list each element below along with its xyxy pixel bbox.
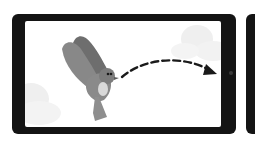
tablet-device [12,14,236,134]
adjacent-tablet [246,14,255,134]
arrow-right-icon [122,60,217,77]
cloud-icon [25,83,61,125]
camera-icon [229,71,233,75]
screen-artwork [25,21,221,127]
bird-icon [62,36,119,121]
illustration-scene [0,0,255,148]
cloud-icon [171,25,221,61]
tablet-screen [25,21,221,127]
